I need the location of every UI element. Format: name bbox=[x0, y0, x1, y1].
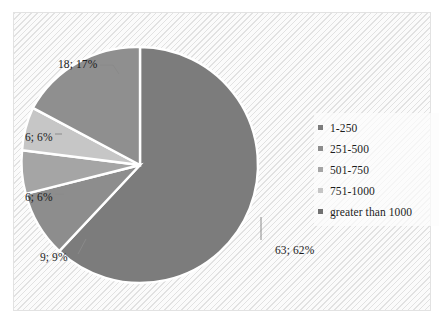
data-label-1-250: 63; 62% bbox=[275, 244, 314, 256]
cut-off-title-remnant bbox=[0, 0, 445, 10]
legend-item-251-500[interactable]: 251-500 bbox=[318, 138, 437, 159]
legend-label: greater than 1000 bbox=[330, 206, 412, 218]
legend-item-751-1000[interactable]: 751-1000 bbox=[318, 180, 437, 201]
data-label-greater-than-1000: 18; 17% bbox=[58, 58, 97, 70]
legend-item-501-750[interactable]: 501-750 bbox=[318, 159, 437, 180]
legend-swatch-icon bbox=[318, 209, 323, 214]
legend-label: 251-500 bbox=[330, 143, 369, 155]
data-label-751-1000: 6; 6% bbox=[25, 131, 53, 143]
legend-swatch-icon bbox=[318, 167, 323, 172]
legend-label: 1-250 bbox=[330, 122, 357, 134]
legend-swatch-icon bbox=[318, 188, 323, 193]
legend-item-1-250[interactable]: 1-250 bbox=[318, 117, 437, 138]
legend-item-greater-than-1000[interactable]: greater than 1000 bbox=[318, 201, 437, 222]
legend-swatch-icon bbox=[318, 125, 323, 130]
legend-label: 501-750 bbox=[330, 164, 369, 176]
data-label-251-500: 9; 9% bbox=[40, 251, 68, 263]
data-label-501-750: 6; 6% bbox=[25, 191, 53, 203]
chart-frame: 63; 62% 18; 17% 6; 6% 6; 6% 9; 9% 1-250 … bbox=[13, 12, 431, 311]
plot-area: 63; 62% 18; 17% 6; 6% 6; 6% 9; 9% 1-250 … bbox=[14, 13, 430, 310]
legend: 1-250 251-500 501-750 751-1000 greater t… bbox=[314, 113, 439, 226]
legend-swatch-icon bbox=[318, 146, 323, 151]
legend-label: 751-1000 bbox=[330, 185, 375, 197]
